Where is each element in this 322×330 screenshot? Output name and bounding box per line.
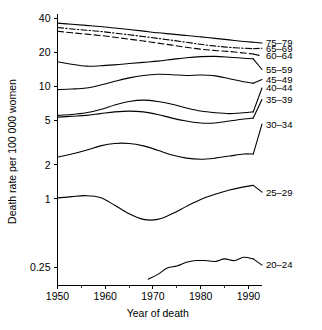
y-tick-label: 40 [39,12,51,24]
series-line-45-49 [58,74,254,89]
series-label-40-44: 40–44 [266,82,292,93]
line-chart: 0.25125102040 19501960197019801990 75–79… [0,0,322,330]
chart-figure: 0.25125102040 19501960197019801990 75–79… [0,0,322,330]
y-tick-label: 0.25 [30,261,51,273]
series-label-20-24: 20–24 [266,259,292,270]
series-line-20-24 [148,257,253,279]
series-leader-30-34 [253,124,262,154]
series-labels: 75–7965–6960–6455–5945–4940–4435–3930–34… [266,37,292,270]
x-axis: 19501960197019801990 [46,285,262,302]
y-tick-label: 2 [45,159,51,171]
x-tick-label: 1990 [237,290,261,302]
series-line-25-29 [58,185,254,220]
series-leader-60-64 [253,54,262,56]
y-tick-label: 20 [39,46,51,58]
series-leader-75-79 [253,42,262,43]
series-lines [58,23,263,279]
y-tick-label: 10 [39,80,51,92]
x-tick-label: 1980 [189,290,213,302]
x-tick-label: 1950 [46,290,70,302]
series-line-40-44 [58,100,254,115]
series-leader-25-29 [253,185,262,192]
x-tick-label: 1960 [94,290,118,302]
series-line-60-64 [58,31,254,54]
series-label-60-64: 60–64 [266,50,292,61]
series-line-55-59 [58,56,254,66]
y-tick-label: 1 [45,193,51,205]
y-axis: 0.25125102040 [30,12,57,285]
series-line-75-79 [58,23,254,42]
x-axis-title: Year of death [127,307,189,319]
series-label-30-34: 30–34 [266,119,292,130]
y-tick-label: 5 [45,114,51,126]
series-line-65-69 [58,27,254,48]
y-axis-title: Death rate per 100 000 women [6,79,18,224]
x-tick-label: 1970 [141,290,165,302]
series-leader-20-24 [253,259,262,265]
series-line-30-34 [58,143,254,159]
series-label-35-39: 35–39 [266,94,292,105]
series-label-25-29: 25–29 [266,187,292,198]
series-leader-45-49 [253,80,262,84]
series-leader-55-59 [253,59,262,70]
